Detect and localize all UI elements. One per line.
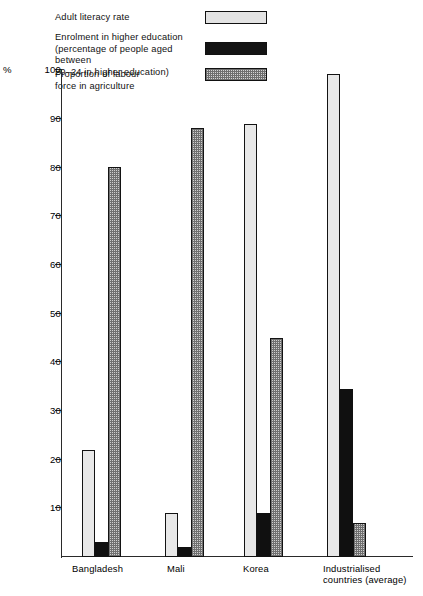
y-tick-label-100: 100 [15,64,61,75]
bar-industrialised-enrolment [340,389,353,557]
y-tick-label-60: 60 [15,259,61,270]
y-tick-label-40: 40 [15,356,61,367]
bar-mali-enrolment [178,547,191,557]
x-label-korea: Korea [243,563,313,574]
x-label-bangladesh: Bangladesh [72,563,162,574]
y-axis-unit-label: % [3,64,12,75]
bar-mali-agriculture [191,128,204,557]
bar-bangladesh-agriculture [108,167,121,557]
y-tick-label-20: 20 [15,454,61,465]
y-tick-label-50: 50 [15,308,61,319]
bar-chart-plot: % 100 90 80 70 60 50 40 30 20 10 Banglad… [0,0,423,596]
bar-bangladesh-literacy [82,450,95,557]
y-tick-label-80: 80 [15,162,61,173]
bar-korea-agriculture [270,338,283,557]
bar-industrialised-literacy [327,74,340,557]
bar-industrialised-agriculture [353,523,366,557]
y-tick-label-70: 70 [15,210,61,221]
y-tick-label-90: 90 [15,113,61,124]
y-tick-label-30: 30 [15,405,61,416]
bar-mali-literacy [165,513,178,557]
bar-korea-enrolment [257,513,270,557]
bar-korea-literacy [244,124,257,557]
x-label-industrialised: Industrialised countries (average) [323,563,423,586]
y-tick-label-10: 10 [15,502,61,513]
bar-bangladesh-enrolment [95,542,108,557]
x-label-mali: Mali [167,563,237,574]
